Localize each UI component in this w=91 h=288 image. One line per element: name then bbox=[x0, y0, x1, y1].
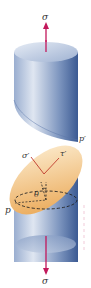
p-label: p bbox=[5, 205, 11, 215]
tau-prime-label: τ′ bbox=[60, 149, 66, 158]
sigma-top-label: σ bbox=[42, 12, 49, 22]
upper-cylinder bbox=[14, 40, 78, 142]
stress-diagram: σ σ′ τ′ p′ θ p σ bbox=[0, 0, 91, 288]
theta-label: θ bbox=[34, 190, 39, 199]
p-prime-label: p′ bbox=[79, 134, 86, 143]
sigma-bottom-label: σ bbox=[42, 276, 49, 286]
sigma-prime-label: σ′ bbox=[22, 151, 29, 160]
